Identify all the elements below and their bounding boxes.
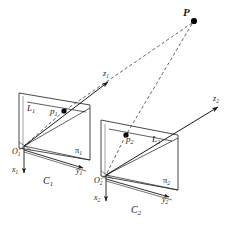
dashed-ray-P-to-p1 [64, 23, 192, 111]
label-image-plane-pi1: π1 [75, 146, 82, 155]
line-L2 [109, 129, 172, 141]
dashed-ray-P-to-p2 [126, 24, 192, 135]
label-axis-y1: y1 [76, 167, 82, 175]
label-line-L1: L1 [27, 104, 35, 113]
optical-ray-O2-to-plane [106, 138, 178, 175]
camera-1-group [19, 82, 108, 173]
label-line-L2: L2 [152, 135, 160, 144]
dashed-ray-p1-to-O1 [24, 111, 64, 146]
label-axis-z1: z1 [103, 70, 109, 78]
label-axis-x1: x1 [12, 166, 18, 174]
label-axis-x2: x2 [94, 194, 100, 202]
label-world-point-P: P [183, 7, 190, 18]
stereo-geometry-figure: P L1 p1 O1 x1 y1 z1 π1 C1 L2 p2 O2 x2 y2 [0, 0, 237, 226]
label-image-point-p1: p1 [50, 107, 58, 116]
axis-z1 [24, 82, 108, 146]
label-camera-C2: C2 [131, 205, 141, 215]
label-image-point-p2: p2 [126, 135, 134, 144]
world-point-P [191, 18, 197, 24]
label-origin-O2: O2 [94, 177, 103, 185]
label-axis-y2: y2 [162, 196, 168, 204]
diagram-canvas [0, 0, 237, 226]
label-axis-z2: z2 [213, 95, 219, 103]
label-camera-C1: C1 [43, 176, 53, 186]
camera-2-group [101, 107, 218, 201]
label-origin-O1: O1 [12, 148, 21, 156]
label-image-plane-pi2: π2 [163, 176, 170, 185]
